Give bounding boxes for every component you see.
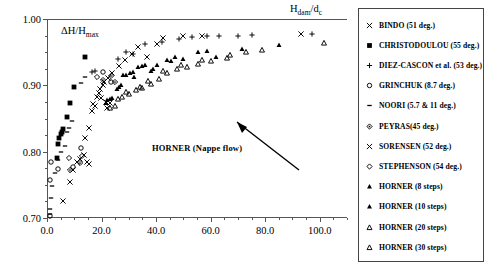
data-point-cross-x bbox=[68, 166, 77, 175]
y-tick-label: 0.70 bbox=[23, 213, 41, 224]
data-point-plus bbox=[90, 67, 99, 76]
data-point-dash bbox=[48, 182, 57, 191]
legend-item[interactable]: CHRISTODOULOU (55 deg.) bbox=[359, 38, 483, 52]
data-point-triangle-filled bbox=[101, 99, 110, 108]
data-point-triangle-filled bbox=[130, 73, 139, 82]
y-tick-label: 1.00 bbox=[23, 14, 41, 25]
legend-marker-cross-x-icon bbox=[359, 21, 379, 30]
data-point-cross-x bbox=[142, 52, 151, 61]
data-point-diamond-open bbox=[78, 152, 87, 161]
data-point-triangle-open bbox=[225, 51, 234, 60]
data-point-cross-x bbox=[98, 81, 107, 90]
data-point-diamond-open bbox=[64, 154, 73, 163]
legend-item-label: HORNER (8 steps) bbox=[379, 182, 443, 191]
data-point-dash bbox=[64, 123, 73, 132]
legend-item[interactable]: HORNER (20 steps) bbox=[359, 220, 483, 234]
data-point-cross-x bbox=[103, 103, 112, 112]
data-point-triangle-open bbox=[194, 60, 203, 69]
axis-top-spine bbox=[47, 19, 347, 20]
legend-item[interactable]: STEPHENSON (54 deg.) bbox=[359, 159, 483, 173]
legend-item[interactable]: SORENSEN (52 deg.) bbox=[359, 139, 483, 153]
y-axis-title-prefix: ΔH/H bbox=[61, 25, 86, 36]
data-point-triangle-filled bbox=[105, 94, 114, 103]
data-point-cross-x bbox=[127, 50, 136, 59]
data-point-cross-x bbox=[198, 31, 207, 40]
legend-item[interactable]: HORNER (10 steps) bbox=[359, 200, 483, 214]
data-point-circle-open bbox=[68, 162, 77, 171]
legend-marker-plus-icon bbox=[359, 61, 379, 70]
data-point-triangle-open bbox=[158, 67, 167, 76]
x-tick-minor bbox=[88, 218, 89, 220]
data-point-triangle-filled bbox=[202, 46, 211, 55]
y-axis-title-subscript: max bbox=[86, 30, 99, 39]
legend-item[interactable]: PEYRAS(45 deg.) bbox=[359, 119, 483, 133]
data-point-cross-x bbox=[120, 56, 129, 65]
data-point-plus bbox=[88, 68, 97, 77]
data-point-triangle-open bbox=[319, 38, 328, 47]
legend-item-label: DIEZ-CASCON et al. (53 deg.) bbox=[379, 61, 482, 70]
data-point-cross-x bbox=[89, 99, 98, 108]
legend-item[interactable]: HORNER (30 steps) bbox=[359, 240, 483, 254]
data-point-cross-x bbox=[153, 39, 162, 48]
data-point-triangle-filled bbox=[153, 61, 162, 70]
y-tick-minor bbox=[45, 185, 48, 186]
chart-root: 0.700.800.901.00 0.020.040.060.080.0100.… bbox=[0, 0, 490, 269]
data-point-square-filled bbox=[81, 52, 90, 61]
legend-item[interactable]: GRINCHUK (8.7 deg.) bbox=[359, 79, 483, 93]
legend-item[interactable]: BINDO (51 deg.) bbox=[359, 18, 483, 32]
data-point-cross-x bbox=[85, 159, 94, 168]
data-point-triangle-filled bbox=[138, 62, 147, 71]
legend-item-label: HORNER (10 steps) bbox=[379, 202, 447, 211]
x-tick-label: 40.0 bbox=[147, 225, 165, 236]
data-point-cross-x bbox=[73, 158, 82, 167]
data-point-cross-x bbox=[81, 134, 90, 143]
data-point-dash bbox=[53, 155, 62, 164]
y-tick-minor bbox=[45, 52, 48, 53]
data-point-triangle-filled bbox=[115, 83, 124, 92]
y-tick-minor bbox=[45, 201, 48, 202]
x-tick-minor bbox=[224, 218, 225, 220]
data-point-triangle-open bbox=[146, 80, 155, 89]
x-tick-label: 100.0 bbox=[308, 225, 332, 236]
y-tick-minor bbox=[45, 102, 48, 103]
data-point-square-filled bbox=[66, 99, 75, 108]
legend-item-label: SORENSEN (52 deg.) bbox=[379, 142, 451, 151]
data-point-triangle-filled bbox=[103, 95, 112, 104]
y-tick-minor bbox=[45, 69, 48, 70]
data-point-plus bbox=[113, 54, 122, 63]
x-tick-minor bbox=[252, 218, 253, 220]
data-point-cross-x bbox=[88, 107, 97, 116]
y-tick-minor bbox=[45, 36, 48, 37]
data-point-dash bbox=[67, 117, 76, 126]
x-tick-minor bbox=[238, 218, 239, 220]
data-point-square-filled bbox=[58, 127, 67, 136]
legend-item[interactable]: NOORI (5.7 & 11 deg.) bbox=[359, 99, 483, 113]
y-tick-major bbox=[43, 152, 48, 153]
x-tick-major bbox=[320, 218, 321, 222]
data-point-square-filled bbox=[52, 154, 61, 163]
data-point-dash bbox=[63, 127, 72, 136]
data-point-triangle-open bbox=[242, 48, 251, 57]
data-point-triangle-open bbox=[223, 54, 232, 63]
data-point-cross-x bbox=[101, 97, 110, 106]
data-point-cross-x bbox=[134, 42, 143, 51]
data-point-diamond-dot bbox=[107, 72, 116, 81]
x-tick-label: 0.0 bbox=[40, 225, 53, 236]
x-axis-title-prefix: H bbox=[290, 3, 298, 14]
data-point-cross-x bbox=[105, 99, 114, 108]
data-point-cross-x bbox=[75, 154, 84, 163]
data-point-triangle-filled bbox=[212, 53, 221, 62]
data-point-dash bbox=[60, 141, 69, 150]
data-point-square-filled bbox=[56, 130, 65, 139]
data-point-triangle-open bbox=[154, 75, 163, 84]
legend-item-label: HORNER (30 steps) bbox=[379, 243, 447, 252]
data-point-dash bbox=[51, 168, 60, 177]
data-point-cross-x bbox=[179, 32, 188, 41]
data-point-triangle-filled bbox=[128, 68, 137, 77]
x-tick-minor bbox=[292, 218, 293, 220]
x-tick-minor bbox=[333, 218, 334, 220]
legend-item[interactable]: DIEZ-CASCON et al. (53 deg.) bbox=[359, 58, 483, 72]
x-tick-major bbox=[47, 218, 48, 222]
data-point-cross-x bbox=[97, 93, 106, 102]
legend-item[interactable]: HORNER (8 steps) bbox=[359, 180, 483, 194]
